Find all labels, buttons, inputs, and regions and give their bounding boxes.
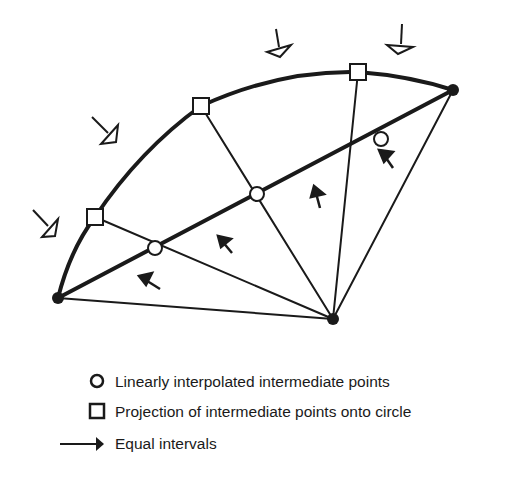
legend-circle-icon <box>91 375 103 387</box>
endpoint-left <box>52 292 64 304</box>
legend-arrow-icon <box>60 437 104 451</box>
projected-point-1 <box>87 209 103 225</box>
projection-arrows <box>33 24 413 237</box>
endpoint-right <box>447 84 459 96</box>
legend-label-square: Projection of intermediate points onto c… <box>115 403 411 420</box>
equal-interval-arrow-1 <box>139 273 160 289</box>
interpolated-points <box>148 132 388 255</box>
projected-points <box>87 64 366 225</box>
equal-interval-arrow-2 <box>218 236 232 253</box>
legend-label-circle: Linearly interpolated intermediate point… <box>115 373 390 390</box>
projection-arrow-4 <box>387 24 413 54</box>
projected-point-3 <box>350 64 366 80</box>
legend: Linearly interpolated intermediate point… <box>60 373 411 452</box>
equal-interval-arrow-4 <box>379 150 393 168</box>
interpolated-point-2 <box>250 187 264 201</box>
projection-arrow-1 <box>33 210 58 237</box>
center-vertex <box>327 313 339 325</box>
interpolated-point-1 <box>148 241 162 255</box>
legend-label-arrow: Equal intervals <box>115 435 217 452</box>
legend-square-icon <box>90 404 104 418</box>
circle-arc <box>58 72 453 298</box>
legend-item-arrow: Equal intervals <box>60 435 217 452</box>
projected-point-2 <box>193 98 209 114</box>
interpolated-point-3 <box>374 132 388 146</box>
legend-item-square: Projection of intermediate points onto c… <box>90 403 411 420</box>
projection-arrow-2 <box>92 117 118 144</box>
diagram-canvas: Linearly interpolated intermediate point… <box>0 0 520 478</box>
projection-arrow-3 <box>267 29 291 57</box>
projection-line-3 <box>333 72 358 319</box>
radius-right <box>333 90 453 319</box>
legend-item-circle: Linearly interpolated intermediate point… <box>91 373 390 390</box>
equal-interval-arrows <box>139 150 393 289</box>
equal-interval-arrow-3 <box>311 186 324 208</box>
